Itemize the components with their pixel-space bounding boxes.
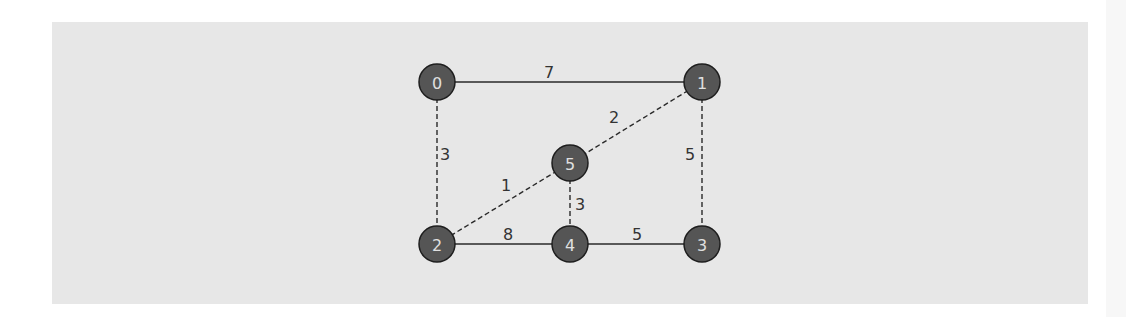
edge-weight-label: 5 <box>632 225 642 244</box>
node-label: 2 <box>432 236 442 255</box>
node-label: 3 <box>697 236 707 255</box>
edge-weight-label: 3 <box>575 195 585 214</box>
graph-node-1: 1 <box>684 64 720 100</box>
graph-nodes: 012345 <box>419 64 720 262</box>
node-label: 4 <box>565 236 575 255</box>
graph-node-5: 5 <box>552 145 588 181</box>
node-label: 1 <box>697 74 707 93</box>
edge-weight-label: 2 <box>609 108 619 127</box>
graph-canvas: 73251385 012345 <box>0 0 1126 317</box>
graph-node-4: 4 <box>552 226 588 262</box>
edge-weight-label: 3 <box>440 145 450 164</box>
diagram-stage: 73251385 012345 <box>0 0 1126 317</box>
edge-weight-label: 1 <box>501 176 511 195</box>
edge-weight-label: 5 <box>685 145 695 164</box>
edge-1-5 <box>570 82 702 163</box>
graph-node-0: 0 <box>419 64 455 100</box>
edge-weight-label: 8 <box>503 225 513 244</box>
graph-node-2: 2 <box>419 226 455 262</box>
node-label: 5 <box>565 155 575 174</box>
graph-node-3: 3 <box>684 226 720 262</box>
edge-weight-label: 7 <box>544 63 554 82</box>
node-label: 0 <box>432 74 442 93</box>
